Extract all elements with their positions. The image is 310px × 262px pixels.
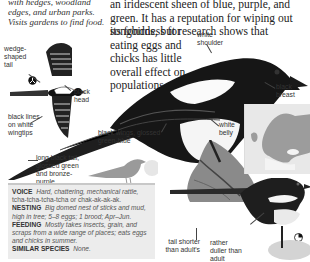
feeding-label: FEEDING [12, 221, 41, 228]
voice-label: VOICE [12, 188, 33, 195]
voice-call: tcha-tcha-tcha-tcha or chak-ak-ak-ak. [12, 196, 121, 203]
habitat-text: with hedges, woodland edges, and urban p… [8, 0, 106, 27]
label-long-tail: long black tail, glossed green and bronz… [36, 154, 88, 186]
label-black-breast: black breast [276, 83, 306, 99]
nesting-label: NESTING [12, 204, 41, 211]
similar-species-label: SIMILAR SPECIES [12, 245, 70, 252]
nesting-entry: NESTING Big domed nest of sticks and mud… [12, 204, 151, 220]
similar-species-text: None. [73, 245, 91, 252]
label-black-lines: black lines on white wingtips [8, 113, 44, 137]
label-black-head: black head [74, 88, 98, 104]
range-map [244, 104, 310, 174]
label-tail-shorter: tail shorter than adult's [164, 238, 200, 254]
label-rather-duller: rather duller than adult [210, 239, 244, 262]
voice-entry: VOICE Hard, chattering, mechanical rattl… [12, 188, 151, 204]
feeding-entry: FEEDING Mostly takes insects, grain, and… [12, 221, 151, 246]
label-black-wings: black wings, glossed green-blue [98, 129, 168, 145]
similar-species-entry: SIMILAR SPECIES None. [12, 245, 151, 253]
label-wedge-tail: wedge-shaped tail [4, 45, 32, 69]
size-silhouette-bird [88, 156, 158, 184]
label-white-shoulder: white shoulder [197, 31, 229, 47]
voice-text: Hard, chattering, mechanical rattle, [36, 188, 138, 195]
species-info-box: VOICE Hard, chattering, mechanical rattl… [8, 183, 155, 259]
label-white-belly: white belly [219, 121, 243, 137]
